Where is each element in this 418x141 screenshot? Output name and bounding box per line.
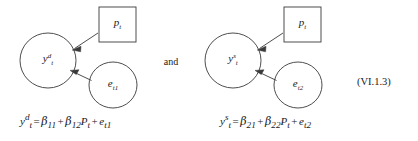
equation-supply-plus-1: + [256, 115, 265, 127]
equation-supply-plus-2: + [290, 115, 299, 127]
equation-demand-term2-sub: t1 [104, 120, 111, 130]
node-label-outcome-demand: ydt [43, 53, 53, 68]
node-label-error-demand: et1 [108, 78, 118, 92]
equation-demand-term0-sub: 11 [48, 120, 56, 130]
conjunction-label: and [164, 56, 178, 67]
equation-demand-plus-2: + [90, 115, 99, 127]
node-label-predictor-supply: pt [299, 17, 306, 31]
node-label-predictor-demand: pt [114, 17, 121, 31]
equation-number: (VI.1.3) [357, 76, 391, 87]
edge-predictor-to-outcome-supply [260, 33, 284, 49]
equation-supply-term0-sub: 21 [247, 120, 256, 130]
equation-demand-term1-factor: P [81, 115, 88, 127]
equation-supply-equals: = [231, 115, 240, 127]
equation-supply-lhs: yst [220, 115, 231, 127]
equation-demand-term1-sub: 12 [72, 120, 81, 130]
equation-demand: ydt=β11+β12Pt+et1 [20, 113, 111, 130]
equation-supply-term2-sub: t2 [304, 120, 311, 130]
equation-demand-plus-1: + [56, 115, 65, 127]
node-label-outcome-supply: yst [228, 53, 238, 68]
equation-demand-lhs: ydt [20, 115, 32, 127]
node-label-error-supply: et2 [293, 78, 303, 92]
edge-predictor-to-outcome-demand [75, 33, 99, 49]
path-diagram-figure: ydt pt et1 yst pt et2 and ydt=β11+β12Pt+… [0, 0, 418, 141]
equation-supply: yst=β21+β22Pt+et2 [220, 113, 311, 130]
equation-demand-equals: = [32, 115, 41, 127]
